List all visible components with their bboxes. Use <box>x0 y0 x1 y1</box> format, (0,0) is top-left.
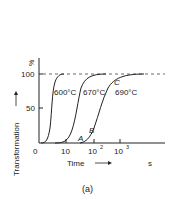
x-unit-label: s <box>148 159 152 168</box>
curve-600C <box>41 74 64 143</box>
series-label-600C: 600°C <box>54 88 77 97</box>
curve-670C <box>55 74 106 143</box>
xtick-10-label: 10 <box>61 147 70 156</box>
y-unit-label: % <box>28 60 35 66</box>
point-label-c: C <box>114 78 120 87</box>
point-label-a: A <box>77 134 83 143</box>
xtick-100-exp: 2 <box>100 144 103 150</box>
transformation-chart: % 100 50 Transformation 0 10 10 2 10 3 T… <box>0 0 178 205</box>
figure-caption: (a) <box>82 184 93 194</box>
y-axis-arrow-icon <box>14 91 18 95</box>
xtick-0-label: 0 <box>33 147 38 156</box>
ytick-50-label: 50 <box>26 104 35 113</box>
xtick-1000-label: 10 <box>114 147 123 156</box>
x-axis-label: Time <box>67 159 85 168</box>
series-label-690C: 690°C <box>115 88 138 97</box>
y-axis-label: Transformation <box>12 123 21 177</box>
series-label-670C: 670°C <box>83 88 106 97</box>
xtick-100-label: 10 <box>88 147 97 156</box>
xtick-1000-exp: 3 <box>126 144 129 150</box>
ytick-100-label: 100 <box>21 70 35 79</box>
point-label-b: B <box>89 126 95 135</box>
x-axis-arrow-icon <box>108 161 112 165</box>
